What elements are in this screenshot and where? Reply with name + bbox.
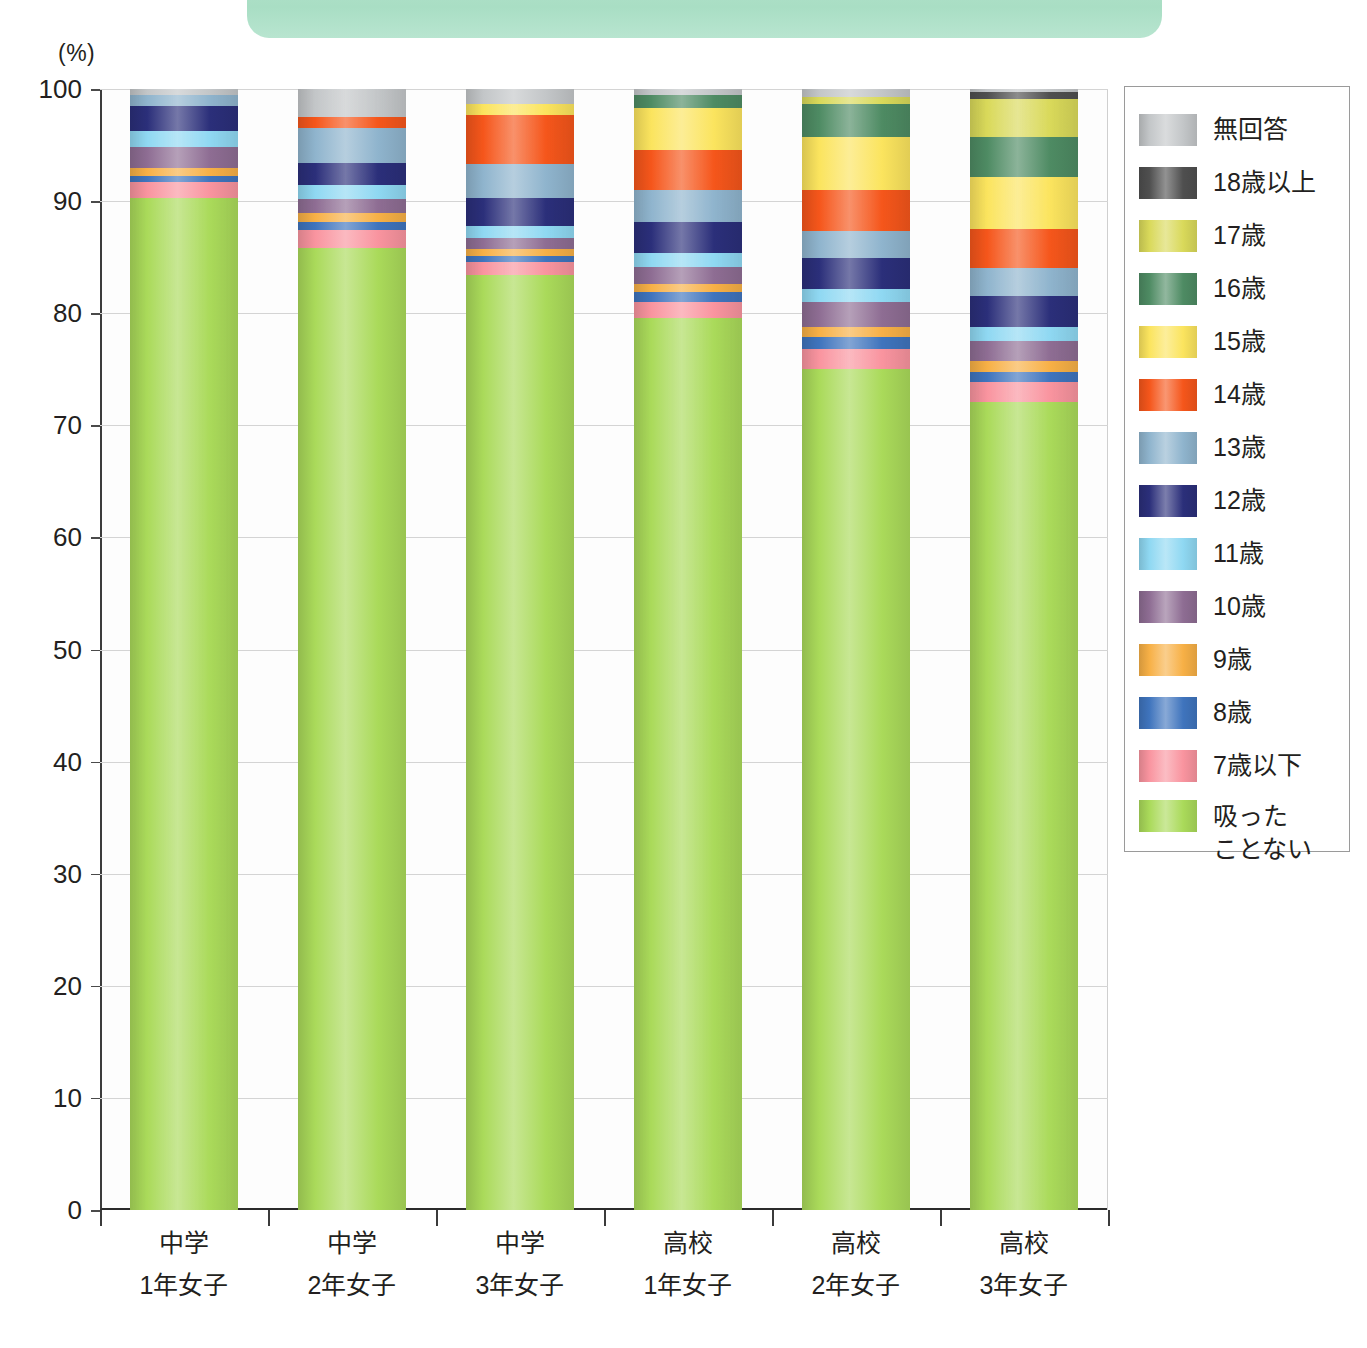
x-axis-label-line: 2年女子 xyxy=(766,1264,946,1306)
legend-item[interactable]: 16歳 xyxy=(1125,262,1349,315)
x-axis-label-line: 中学 xyxy=(430,1222,610,1264)
bar-column[interactable] xyxy=(466,89,574,1210)
bar-segment xyxy=(466,89,574,104)
bar-segment xyxy=(970,382,1078,402)
y-axis-tick-label: 50 xyxy=(20,634,82,665)
x-axis-label-line: 1年女子 xyxy=(94,1264,274,1306)
x-axis-label-line: 2年女子 xyxy=(262,1264,442,1306)
legend-label: 10歳 xyxy=(1213,590,1266,623)
legend-swatch xyxy=(1139,800,1197,832)
x-axis-label-line: 高校 xyxy=(598,1222,778,1264)
legend-swatch xyxy=(1139,591,1197,623)
bar-segment xyxy=(634,253,742,268)
bar-segment xyxy=(970,296,1078,326)
bar-segment xyxy=(634,150,742,190)
bar-segment xyxy=(970,137,1078,176)
y-axis-tick-label: 10 xyxy=(20,1082,82,1113)
legend-swatch xyxy=(1139,432,1197,464)
y-axis-tick-label: 90 xyxy=(20,186,82,217)
bar-segment xyxy=(634,292,742,302)
bar-segment xyxy=(466,198,574,226)
bar-segment xyxy=(130,131,238,148)
x-axis-tick-label: 高校3年女子 xyxy=(934,1222,1114,1306)
gridline xyxy=(100,425,1108,426)
gridline xyxy=(100,537,1108,538)
y-axis-tick-label: 40 xyxy=(20,746,82,777)
bar-segment xyxy=(802,337,910,349)
x-axis-tick-label: 中学2年女子 xyxy=(262,1222,442,1306)
bar-column[interactable] xyxy=(802,89,910,1210)
bar-segment xyxy=(970,177,1078,230)
y-axis-tick-label: 0 xyxy=(20,1195,82,1226)
bar-segment xyxy=(466,104,574,115)
legend-item[interactable]: 10歳 xyxy=(1125,580,1349,633)
bar-segment xyxy=(298,128,406,163)
legend-label: 8歳 xyxy=(1213,696,1252,729)
x-axis-label-line: 高校 xyxy=(766,1222,946,1264)
bar-segment xyxy=(970,341,1078,361)
legend-item[interactable]: 7歳以下 xyxy=(1125,739,1349,792)
bar-segment xyxy=(466,249,574,256)
y-tick-mark xyxy=(91,1098,100,1100)
gridline xyxy=(100,89,1108,90)
bar-segment xyxy=(970,361,1078,371)
legend-item[interactable]: 無回答 xyxy=(1125,103,1349,156)
y-tick-mark xyxy=(91,762,100,764)
legend-swatch xyxy=(1139,326,1197,358)
legend-label: 13歳 xyxy=(1213,431,1266,464)
bar-column[interactable] xyxy=(634,89,742,1210)
legend-item[interactable]: 9歳 xyxy=(1125,633,1349,686)
legend-label: 11歳 xyxy=(1213,537,1264,570)
legend-item[interactable]: 17歳 xyxy=(1125,209,1349,262)
bar-column[interactable] xyxy=(298,89,406,1210)
bar-segment xyxy=(802,89,910,97)
legend-item[interactable]: 14歳 xyxy=(1125,368,1349,421)
y-axis-tick-label: 60 xyxy=(20,522,82,553)
bar-segment xyxy=(970,402,1078,1210)
y-tick-mark xyxy=(91,874,100,876)
gridline xyxy=(100,986,1108,987)
bar-segment xyxy=(970,327,1078,342)
y-tick-mark xyxy=(91,201,100,203)
bar-segment xyxy=(970,372,1078,382)
legend-item[interactable]: 8歳 xyxy=(1125,686,1349,739)
bar-segment xyxy=(802,302,910,327)
bar-segment xyxy=(802,369,910,1210)
bar-segment xyxy=(970,99,1078,137)
legend-item[interactable]: 12歳 xyxy=(1125,474,1349,527)
bar-column[interactable] xyxy=(970,89,1078,1210)
legend-item[interactable]: 15歳 xyxy=(1125,315,1349,368)
legend-swatch xyxy=(1139,167,1197,199)
y-axis-tick-label: 70 xyxy=(20,410,82,441)
bar-column[interactable] xyxy=(130,89,238,1210)
x-axis-tick-label: 中学3年女子 xyxy=(430,1222,610,1306)
y-axis-unit-label: (%) xyxy=(58,40,95,67)
legend-swatch xyxy=(1139,538,1197,570)
bar-segment xyxy=(802,231,910,258)
bar-segment xyxy=(466,238,574,249)
legend-swatch xyxy=(1139,750,1197,782)
bar-segment xyxy=(466,275,574,1210)
bar-segment xyxy=(802,258,910,288)
legend-item[interactable]: 11歳 xyxy=(1125,527,1349,580)
bar-segment xyxy=(970,92,1078,99)
legend-item[interactable]: 13歳 xyxy=(1125,421,1349,474)
x-axis-label-line: 1年女子 xyxy=(598,1264,778,1306)
bar-segment xyxy=(634,222,742,252)
x-axis-label-line: 3年女子 xyxy=(934,1264,1114,1306)
y-tick-mark xyxy=(91,537,100,539)
gridline xyxy=(100,313,1108,314)
bar-segment xyxy=(802,327,910,337)
bar-segment xyxy=(802,104,910,138)
legend-item[interactable]: 吸った ことない xyxy=(1125,792,1349,888)
legend-label: 吸った ことない xyxy=(1213,800,1312,866)
bar-segment xyxy=(298,163,406,185)
x-axis-tick-label: 中学1年女子 xyxy=(94,1222,274,1306)
y-tick-mark xyxy=(91,89,100,91)
legend-item[interactable]: 18歳以上 xyxy=(1125,156,1349,209)
gridline xyxy=(100,874,1108,875)
y-axis-tick-label: 80 xyxy=(20,298,82,329)
bar-segment xyxy=(634,284,742,292)
bar-segment xyxy=(634,95,742,108)
legend-swatch xyxy=(1139,379,1197,411)
